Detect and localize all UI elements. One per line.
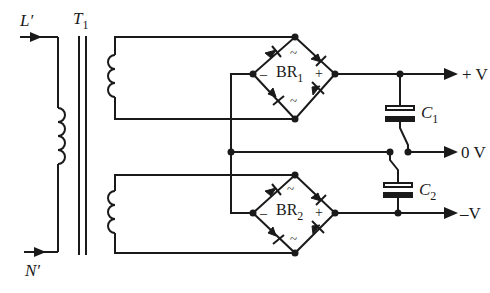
primary-winding xyxy=(20,37,65,252)
transformer-label: T1 xyxy=(73,10,88,27)
output-plus-v-label: + V xyxy=(462,66,488,83)
circuit-diagram: L′ N′ T1 BR1 – + ~ ~ BR2 – + ~ ~ C1 C2 +… xyxy=(0,0,490,293)
bridge-2-minus: – xyxy=(260,207,267,221)
transformer-core xyxy=(79,36,86,255)
bridge-2-ac-bottom: ~ xyxy=(290,232,297,245)
output-minus-v-label: –V xyxy=(460,205,481,222)
bridge-1-ac-top: ~ xyxy=(290,46,297,59)
bridge-2-label: BR2 xyxy=(276,202,303,218)
output-zero-v-label: 0 V xyxy=(461,144,486,161)
input-line-arrow-icon xyxy=(30,32,42,42)
bridge-2-ac-top: ~ xyxy=(287,182,294,195)
bridge-2-plus: + xyxy=(315,206,323,220)
output-minus-arrow-icon xyxy=(444,207,458,219)
arrowheads xyxy=(30,32,458,257)
input-neutral-label: N′ xyxy=(25,262,40,279)
capacitor-c1 xyxy=(400,74,408,152)
input-line-label: L′ xyxy=(20,12,33,29)
output-plus-arrow-icon xyxy=(444,68,458,80)
input-neutral-arrow-icon xyxy=(34,247,46,257)
schematic-drawing xyxy=(0,0,490,293)
capacitor-c1-label: C1 xyxy=(421,104,438,121)
bridge-1-ac-bottom: ~ xyxy=(290,94,297,107)
output-zero-arrow-icon xyxy=(444,146,458,158)
common-wire xyxy=(231,74,450,213)
capacitor-c2-label: C2 xyxy=(419,181,436,198)
bridge-1-plus: + xyxy=(315,67,323,81)
bridge-1-label: BR1 xyxy=(276,64,303,80)
bridge-1-minus: – xyxy=(260,68,267,82)
